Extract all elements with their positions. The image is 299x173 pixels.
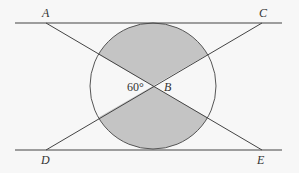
label-A: A — [41, 6, 50, 20]
angle-label: 60° — [127, 80, 144, 94]
label-D: D — [40, 153, 50, 167]
label-E: E — [256, 153, 265, 167]
label-C: C — [259, 6, 268, 20]
shaded-sector-top — [98, 23, 207, 86]
label-B: B — [164, 80, 172, 94]
geometry-diagram: A C D E B 60° — [0, 0, 299, 173]
shaded-sector-bottom — [98, 86, 207, 149]
